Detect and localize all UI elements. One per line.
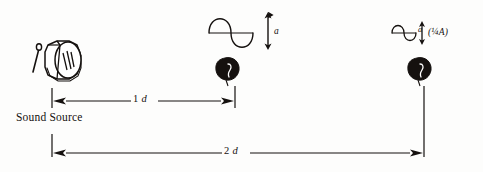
amplitude-label-far: a [418,25,422,34]
amplitude-label-near: a [274,27,279,37]
drumstick-icon [33,44,42,72]
double-arrow-vertical-icon-near [265,12,272,50]
amplitude-value-far: (¼A) [428,28,448,38]
drum-icon [45,41,81,81]
sound-intensity-diagram: Sound Source 1 d 2 d a a (¼A) [0,0,483,172]
distance-2d-unit: d [233,145,239,156]
sound-source-label: Sound Source [16,112,83,124]
distance-label-1d: 1 d [133,94,147,105]
ear-icon-far [408,58,431,86]
distance-label-2d: 2 d [224,146,238,157]
distance-1d-unit: d [142,93,148,104]
ear-icon-near [216,58,239,86]
distance-1d-number: 1 [133,93,139,104]
distance-2d-number: 2 [224,145,230,156]
sine-wave-icon-far [392,26,416,41]
diagram-canvas [0,0,483,172]
sine-wave-icon-near [209,19,253,48]
